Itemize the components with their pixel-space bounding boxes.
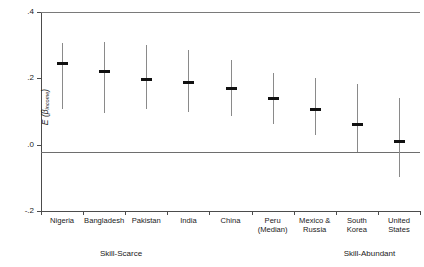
- y-tick-label: .2: [27, 74, 34, 82]
- x-tick-mark: [83, 211, 84, 215]
- y-tick-mark: [37, 12, 41, 13]
- x-category-label-line1: Nigeria: [50, 216, 74, 225]
- y-axis-title-subscript: income: [44, 92, 50, 110]
- point-estimate-marker: [183, 81, 194, 84]
- y-axis-title: E (βincome): [40, 89, 50, 125]
- x-category-label-line1: South: [347, 216, 367, 225]
- x-category-label-line2: Russia: [299, 225, 330, 234]
- confidence-interval-whisker: [104, 42, 105, 113]
- point-estimate-marker: [57, 62, 68, 65]
- x-tick-mark: [294, 211, 295, 215]
- x-category-label: India: [180, 216, 196, 225]
- x-category-label: Peru(Median): [258, 216, 288, 234]
- x-category-label: Mexico &Russia: [299, 216, 330, 234]
- x-tick-mark: [209, 211, 210, 215]
- x-tick-mark: [41, 211, 42, 215]
- confidence-interval-whisker: [357, 84, 358, 152]
- x-category-label-line1: China: [221, 216, 241, 225]
- plot-top-rule: [41, 12, 420, 13]
- x-tick-mark: [125, 211, 126, 215]
- point-estimate-marker: [141, 78, 152, 81]
- x-category-label-line2: (Median): [258, 225, 288, 234]
- group-annotation-label: Skill-Abundant: [344, 249, 396, 258]
- x-tick-mark: [252, 211, 253, 215]
- y-tick-label: .4: [27, 8, 34, 16]
- x-category-label-line1: United: [388, 216, 410, 225]
- y-tick-mark: [37, 145, 41, 146]
- x-category-label: China: [221, 216, 241, 225]
- group-annotation-label: Skill-Scarce: [100, 249, 142, 258]
- x-category-label-line2: States: [388, 225, 410, 234]
- x-category-label: UnitedStates: [388, 216, 410, 234]
- y-tick-label: -.2: [25, 207, 34, 215]
- point-estimate-marker: [352, 123, 363, 126]
- confidence-interval-whisker: [399, 98, 400, 177]
- point-estimate-marker: [394, 140, 405, 143]
- x-category-label-line1: Mexico &: [299, 216, 330, 225]
- y-tick-label: .0: [27, 141, 34, 149]
- confidence-interval-whisker: [62, 43, 63, 108]
- x-category-label-line1: India: [180, 216, 196, 225]
- x-category-label: Bangladesh: [84, 216, 124, 225]
- point-estimate-marker: [226, 87, 237, 90]
- plot-area: .4.2.0-.2 E (βincome): [41, 12, 420, 211]
- point-estimate-marker: [310, 108, 321, 111]
- x-category-label: SouthKorea: [347, 216, 367, 234]
- x-tick-mark: [378, 211, 379, 215]
- confidence-interval-whisker: [315, 78, 316, 135]
- zero-reference-line: [41, 152, 420, 153]
- point-estimate-marker: [268, 97, 279, 100]
- x-category-label: Nigeria: [50, 216, 74, 225]
- error-bar-chart: .4.2.0-.2 E (βincome) NigeriaBangladeshP…: [0, 0, 424, 267]
- x-tick-mark: [167, 211, 168, 215]
- x-category-label-line1: Pakistan: [132, 216, 161, 225]
- y-axis-title-tail: ): [40, 89, 50, 92]
- x-category-label-line1: Bangladesh: [84, 216, 124, 225]
- x-axis-line: [41, 211, 420, 212]
- x-tick-mark: [420, 211, 421, 215]
- y-axis-title-main: E (β: [40, 109, 50, 125]
- x-tick-mark: [336, 211, 337, 215]
- x-category-label-line1: Peru: [265, 216, 281, 225]
- point-estimate-marker: [99, 70, 110, 73]
- x-category-label-line2: Korea: [347, 225, 367, 234]
- x-axis-category-labels: NigeriaBangladeshPakistanIndiaChinaPeru(…: [41, 216, 420, 240]
- y-tick-mark: [37, 78, 41, 79]
- x-category-label: Pakistan: [132, 216, 161, 225]
